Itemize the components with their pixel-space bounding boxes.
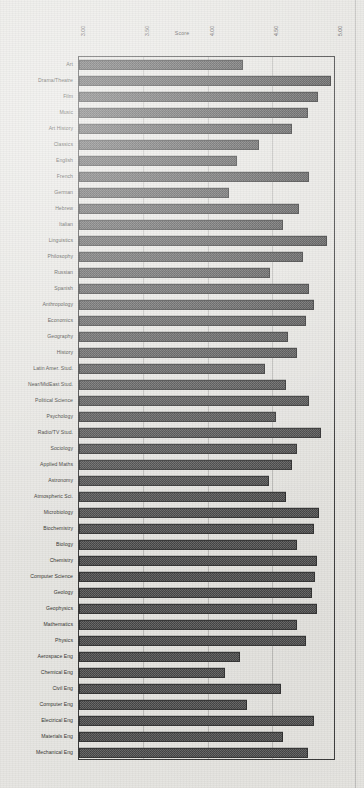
bar xyxy=(79,684,281,694)
bar xyxy=(79,540,297,550)
bar-row xyxy=(79,281,334,297)
bar-row xyxy=(79,425,334,441)
bar-row xyxy=(79,665,334,681)
bar-row xyxy=(79,409,334,425)
category-label: Materials Eng xyxy=(0,728,76,744)
bar-row xyxy=(79,185,334,201)
category-label: Political Science xyxy=(0,392,76,408)
bar xyxy=(79,76,331,86)
bar-row xyxy=(79,489,334,505)
category-label: Computer Science xyxy=(0,568,76,584)
bar xyxy=(79,220,283,230)
plot-area xyxy=(78,56,335,760)
category-label: Microbiology xyxy=(0,504,76,520)
category-label: Hebrew xyxy=(0,200,76,216)
bar xyxy=(79,428,321,438)
category-label: Economics xyxy=(0,312,76,328)
bar xyxy=(79,700,247,710)
category-label: Geology xyxy=(0,584,76,600)
category-label: Italian xyxy=(0,216,76,232)
bar-row xyxy=(79,537,334,553)
bar-row xyxy=(79,585,334,601)
bar-row xyxy=(79,329,334,345)
category-label: Chemical Eng xyxy=(0,664,76,680)
bar-row xyxy=(79,265,334,281)
y-axis-category-labels: ArtDrama/TheatreFilmMusicArt HistoryClas… xyxy=(0,56,76,760)
bar-row xyxy=(79,393,334,409)
bar xyxy=(79,716,314,726)
bar xyxy=(79,188,229,198)
bar xyxy=(79,732,283,742)
bar xyxy=(79,652,240,662)
bar xyxy=(79,412,276,422)
bar-row xyxy=(79,553,334,569)
category-label: Art History xyxy=(0,120,76,136)
category-label: Anthropology xyxy=(0,296,76,312)
category-label: Psychology xyxy=(0,408,76,424)
bar-row xyxy=(79,601,334,617)
bar-row xyxy=(79,713,334,729)
bar-row xyxy=(79,249,334,265)
bar-row xyxy=(79,57,334,73)
bar-row xyxy=(79,521,334,537)
category-label: Electrical Eng xyxy=(0,712,76,728)
bar xyxy=(79,236,327,246)
bar-row xyxy=(79,441,334,457)
category-label: Classics xyxy=(0,136,76,152)
category-label: Drama/Theatre xyxy=(0,72,76,88)
bar xyxy=(79,156,237,166)
bar-rows xyxy=(79,57,334,759)
bar xyxy=(79,476,269,486)
bar xyxy=(79,300,314,310)
bar-row xyxy=(79,121,334,137)
category-label: Philosophy xyxy=(0,248,76,264)
category-label: Art xyxy=(0,56,76,72)
bar xyxy=(79,460,292,470)
bar-row xyxy=(79,505,334,521)
bar xyxy=(79,124,292,134)
bar xyxy=(79,508,319,518)
bar xyxy=(79,620,297,630)
category-label: Biochemistry xyxy=(0,520,76,536)
bar xyxy=(79,524,314,534)
bar xyxy=(79,668,225,678)
category-label: Computer Eng xyxy=(0,696,76,712)
bar xyxy=(79,140,259,150)
category-label: Biology xyxy=(0,536,76,552)
bar xyxy=(79,268,270,278)
bar-row xyxy=(79,649,334,665)
category-label: English xyxy=(0,152,76,168)
bar xyxy=(79,444,297,454)
bar xyxy=(79,364,265,374)
bar xyxy=(79,92,318,102)
category-label: Latin Amer. Stud. xyxy=(0,360,76,376)
bar-row xyxy=(79,569,334,585)
category-label: Near/MidEast Stud. xyxy=(0,376,76,392)
bar xyxy=(79,492,286,502)
bar-row xyxy=(79,297,334,313)
category-label: German xyxy=(0,184,76,200)
bar xyxy=(79,556,317,566)
bar xyxy=(79,252,303,262)
bar-chart-figure: Score 3.003.504.004.505.00 ArtDrama/Thea… xyxy=(0,0,364,788)
bar-row xyxy=(79,73,334,89)
bar-row xyxy=(79,377,334,393)
bar-row xyxy=(79,105,334,121)
bar-row xyxy=(79,345,334,361)
bar-row xyxy=(79,697,334,713)
bar-row xyxy=(79,137,334,153)
category-label: Sociology xyxy=(0,440,76,456)
bar-row xyxy=(79,729,334,745)
category-label: Aerospace Eng xyxy=(0,648,76,664)
bar-row xyxy=(79,617,334,633)
bar xyxy=(79,396,309,406)
category-label: History xyxy=(0,344,76,360)
bar-row xyxy=(79,153,334,169)
category-label: Geography xyxy=(0,328,76,344)
category-label: Mathematics xyxy=(0,616,76,632)
bar-row xyxy=(79,89,334,105)
bar-row xyxy=(79,313,334,329)
x-tick-3.50: 3.50 xyxy=(144,26,150,36)
bar-row xyxy=(79,233,334,249)
bar-row xyxy=(79,745,334,760)
